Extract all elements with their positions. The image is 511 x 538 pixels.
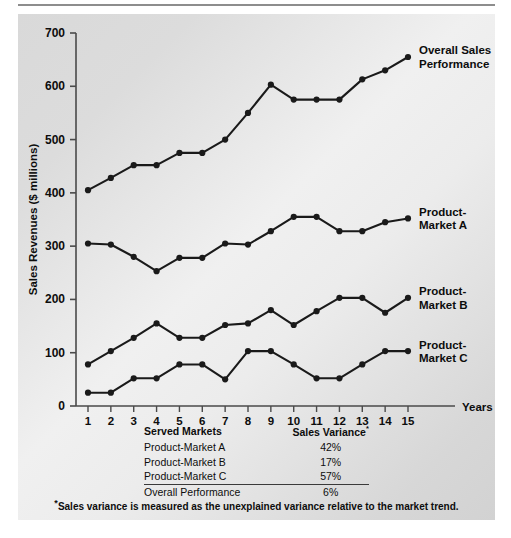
y-axis-title: Sales Revenues ($ millions): [27, 144, 39, 296]
series-label: Market C: [419, 352, 468, 364]
series-marker: [245, 241, 251, 247]
series-marker: [176, 361, 182, 367]
footnote-text: Sales variance is measured as the unexpl…: [58, 501, 459, 512]
table-cell-market: Product-Market B: [144, 455, 292, 470]
series-label: Market A: [419, 219, 467, 231]
series-marker: [313, 308, 319, 314]
header-sales-variance-label: Sales Variance: [292, 426, 366, 438]
series-marker: [222, 136, 228, 142]
series-marker: [268, 307, 274, 313]
series-marker: [291, 214, 297, 220]
series-line-1: [88, 57, 408, 190]
series-marker: [131, 162, 137, 168]
series-marker: [199, 150, 205, 156]
y-axis-tick-label: 200: [45, 292, 65, 306]
sales-variance-table-wrap: Served Markets Sales Variance* Product-M…: [18, 424, 495, 500]
series-label: Performance: [419, 58, 489, 70]
series-marker: [336, 295, 342, 301]
table-cell-market: Product-Market A: [144, 441, 292, 456]
series-marker: [245, 348, 251, 354]
header-served-markets: Served Markets: [144, 424, 292, 441]
series-marker: [336, 97, 342, 103]
series-label: Product-: [419, 339, 466, 351]
table-header-row: Served Markets Sales Variance*: [144, 424, 369, 441]
series-marker: [359, 295, 365, 301]
series-label: Product-: [419, 206, 466, 218]
series-marker: [313, 97, 319, 103]
series-marker: [153, 268, 159, 274]
series-marker: [153, 375, 159, 381]
series-marker: [222, 376, 228, 382]
series-marker: [268, 348, 274, 354]
series-marker: [176, 150, 182, 156]
table-cell-variance: 57%: [292, 470, 368, 485]
series-marker: [291, 322, 297, 328]
series-marker: [131, 254, 137, 260]
series-marker: [131, 335, 137, 341]
series-marker: [199, 255, 205, 261]
series-marker: [359, 361, 365, 367]
table-row: Product-Market B17%: [144, 455, 369, 470]
header-sales-variance: Sales Variance*: [292, 424, 368, 441]
series-marker: [336, 375, 342, 381]
table-cell-variance: 42%: [292, 441, 368, 456]
table-row: Product-Market C57%: [144, 470, 369, 485]
series-marker: [153, 320, 159, 326]
series-marker: [85, 390, 91, 396]
series-marker: [359, 76, 365, 82]
series-marker: [382, 310, 388, 316]
footnote: *Sales variance is measured as the unexp…: [18, 498, 495, 512]
y-axis-tick-label: 500: [45, 133, 65, 147]
table-cell-variance: 17%: [292, 455, 368, 470]
series-marker: [336, 228, 342, 234]
series-marker: [108, 241, 114, 247]
y-axis-tick-label: 300: [45, 239, 65, 253]
y-axis-tick-label: 0: [58, 399, 65, 413]
series-marker: [222, 322, 228, 328]
series-marker: [382, 348, 388, 354]
series-marker: [131, 375, 137, 381]
series-marker: [85, 361, 91, 367]
series-marker: [245, 110, 251, 116]
series-line-3: [88, 298, 408, 365]
series-marker: [199, 335, 205, 341]
series-marker: [153, 162, 159, 168]
series-marker: [359, 228, 365, 234]
series-marker: [199, 361, 205, 367]
series-marker: [85, 240, 91, 246]
series-label: Market B: [419, 299, 468, 311]
series-marker: [382, 67, 388, 73]
series-line-4: [88, 351, 408, 393]
table-row: Product-Market A42%: [144, 441, 369, 456]
y-axis-tick-label: 600: [45, 79, 65, 93]
series-marker: [313, 375, 319, 381]
series-marker: [405, 54, 411, 60]
header-footnote-marker: *: [366, 424, 369, 433]
series-marker: [268, 228, 274, 234]
series-marker: [405, 215, 411, 221]
series-marker: [176, 255, 182, 261]
series-marker: [222, 240, 228, 246]
y-axis-tick-label: 700: [45, 26, 65, 40]
series-marker: [291, 97, 297, 103]
table-cell-market: Product-Market C: [144, 470, 292, 485]
series-marker: [291, 361, 297, 367]
series-marker: [382, 219, 388, 225]
x-axis-title: Years: [462, 401, 493, 413]
y-axis-tick-label: 400: [45, 186, 65, 200]
series-marker: [405, 295, 411, 301]
series-marker: [245, 320, 251, 326]
series-marker: [176, 335, 182, 341]
series-marker: [405, 348, 411, 354]
sales-variance-table: Served Markets Sales Variance* Product-M…: [144, 424, 369, 500]
series-marker: [85, 187, 91, 193]
series-marker: [313, 214, 319, 220]
series-marker: [268, 82, 274, 88]
table-body: Product-Market A42%Product-Market B17%Pr…: [144, 441, 369, 500]
y-axis-tick-label: 100: [45, 346, 65, 360]
series-marker: [108, 348, 114, 354]
series-label: Product-: [419, 285, 466, 297]
series-label: Overall Sales: [419, 44, 491, 56]
series-marker: [108, 175, 114, 181]
series-marker: [108, 390, 114, 396]
